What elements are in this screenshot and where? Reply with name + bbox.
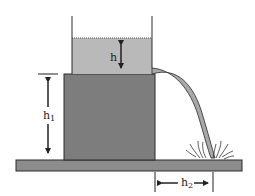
h2-label: h2 xyxy=(181,176,193,190)
h1-label: h1 xyxy=(43,109,55,123)
water-stream xyxy=(152,68,215,158)
diagram-canvas: h h1 h2 xyxy=(0,0,255,196)
support-block xyxy=(64,74,155,160)
ground-plate xyxy=(16,160,242,171)
h-label: h xyxy=(110,51,117,64)
